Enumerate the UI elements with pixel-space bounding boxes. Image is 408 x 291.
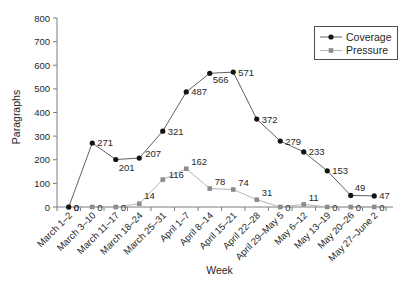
data-label: 372 [262,114,278,125]
pressure-marker [113,205,118,210]
y-tick-label: 400 [34,107,50,118]
data-label: 233 [309,146,325,157]
coverage-marker [348,193,353,198]
coverage-marker [325,168,330,173]
pressure-marker [325,205,330,210]
x-axis-title: Week [206,264,233,276]
coverage-marker [137,155,142,160]
data-label: 11 [309,192,319,203]
pressure-marker [160,177,165,182]
pressure-legend-marker-icon [329,48,334,53]
data-label: 271 [97,137,113,148]
data-label: 207 [145,148,161,159]
y-tick-label: 600 [34,60,50,71]
pressure-marker [254,197,259,202]
pressure-marker [184,166,189,171]
pressure-marker [231,187,236,192]
data-label: 0 [379,202,384,213]
data-label: 279 [285,136,301,147]
pressure-marker [372,205,377,210]
pressure-marker [90,205,95,210]
coverage-marker [184,89,189,94]
data-label: 0 [121,202,126,213]
data-label: 0 [97,202,102,213]
coverage-marker [90,140,95,145]
data-label: 153 [332,165,348,176]
y-tick-label: 300 [34,131,50,142]
y-tick-label: 800 [34,13,50,24]
coverage-pressure-figure: 0100200300400500600700800March 1–2March … [0,0,408,291]
legend: CoveragePressure [315,27,398,60]
data-label: 0 [332,202,337,213]
pressure-line [69,169,375,207]
y-tick-label: 500 [34,83,50,94]
coverage-marker [372,193,377,198]
pressure-marker [301,202,306,207]
series-pressure [66,166,376,209]
data-label: 31 [262,187,273,198]
coverage-marker [278,138,283,143]
coverage-marker [113,157,118,162]
data-label: 201 [119,162,135,173]
y-tick-label: 100 [34,178,50,189]
line-chart-svg: 0100200300400500600700800March 1–2March … [0,0,408,291]
data-label: 47 [379,190,390,201]
data-label: 0 [285,202,290,213]
coverage-marker [254,117,259,122]
data-label: 14 [144,190,155,201]
coverage-marker [207,71,212,76]
pressure-marker [278,205,283,210]
legend-label: Coverage [346,31,392,43]
data-label: 78 [215,176,226,187]
pressure-marker [348,205,353,210]
data-label: 0 [74,202,79,213]
y-tick-label: 200 [34,154,50,165]
pressure-marker [207,186,212,191]
data-label: 566 [213,74,229,85]
coverage-marker [66,204,71,209]
coverage-marker [231,70,236,75]
coverage-marker [160,129,165,134]
data-label: 162 [191,156,207,167]
coverage-legend-marker-icon [328,34,333,39]
y-tick-label: 700 [34,36,50,47]
y-axis-title: Paragraphs [10,90,22,144]
legend-label: Pressure [346,44,388,56]
data-label: 49 [355,182,366,193]
data-label: 487 [191,86,207,97]
coverage-marker [301,149,306,154]
pressure-marker [137,201,142,206]
data-label: 0 [356,202,361,213]
data-label: 571 [238,67,254,78]
data-label: 321 [168,126,184,137]
y-tick-label: 0 [45,202,50,213]
data-label: 74 [238,177,249,188]
data-label: 116 [169,169,184,180]
